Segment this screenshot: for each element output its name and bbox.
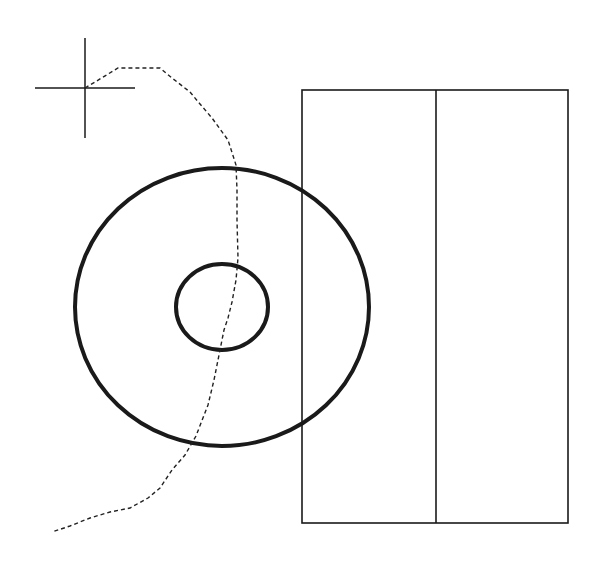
cad-drawing bbox=[0, 0, 608, 570]
dashed-freehand-path[interactable] bbox=[52, 68, 238, 532]
outer-circle[interactable] bbox=[75, 168, 369, 446]
rectangle[interactable] bbox=[302, 90, 568, 523]
drawing-canvas[interactable] bbox=[0, 0, 608, 570]
